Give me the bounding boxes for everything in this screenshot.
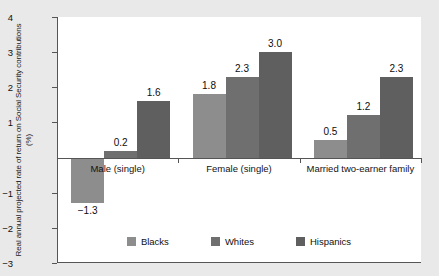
y-tick-label: 3 — [0, 47, 18, 58]
bar-value-label: −1.3 — [78, 205, 98, 216]
bar-hispanics-2 — [380, 77, 413, 158]
y-tick-label: −3 — [0, 258, 18, 269]
y-tick-mark — [52, 17, 57, 18]
y-tick-label: 4 — [0, 12, 18, 23]
bar-hispanics-0 — [137, 101, 170, 157]
x-category-label: Female (single) — [206, 163, 271, 174]
bar-whites-0 — [104, 151, 137, 158]
y-tick-mark — [52, 87, 57, 88]
bar-value-label: 2.3 — [235, 63, 249, 74]
x-category-label: Male (single) — [90, 163, 144, 174]
zero-baseline — [57, 158, 421, 159]
y-tick-label: −2 — [0, 222, 18, 233]
chart-figure: Real annual projected rate of return on … — [0, 0, 439, 276]
y-tick-mark — [52, 263, 57, 264]
bar-value-label: 1.8 — [202, 80, 216, 91]
bar-value-label: 0.2 — [114, 137, 128, 148]
y-tick-label: 2 — [0, 82, 18, 93]
bar-value-label: 0.5 — [323, 126, 337, 137]
bar-value-label: 1.2 — [356, 101, 370, 112]
bar-blacks-2 — [314, 140, 347, 158]
bar-blacks-1 — [193, 94, 226, 157]
y-tick-mark — [52, 52, 57, 53]
y-tick-label: −1 — [0, 187, 18, 198]
x-category-label: Married two-earner family — [306, 163, 414, 174]
bar-value-label: 2.3 — [389, 63, 403, 74]
bar-whites-1 — [226, 77, 259, 158]
y-tick-mark — [52, 122, 57, 123]
y-tick-label: 1 — [0, 117, 18, 128]
bar-whites-2 — [347, 115, 380, 157]
y-tick-mark — [52, 193, 57, 194]
bar-hispanics-1 — [259, 52, 292, 157]
bar-value-label: 1.6 — [147, 87, 161, 98]
bar-value-label: 3.0 — [268, 38, 282, 49]
y-tick-mark — [52, 228, 57, 229]
x-group-tick — [421, 158, 422, 163]
